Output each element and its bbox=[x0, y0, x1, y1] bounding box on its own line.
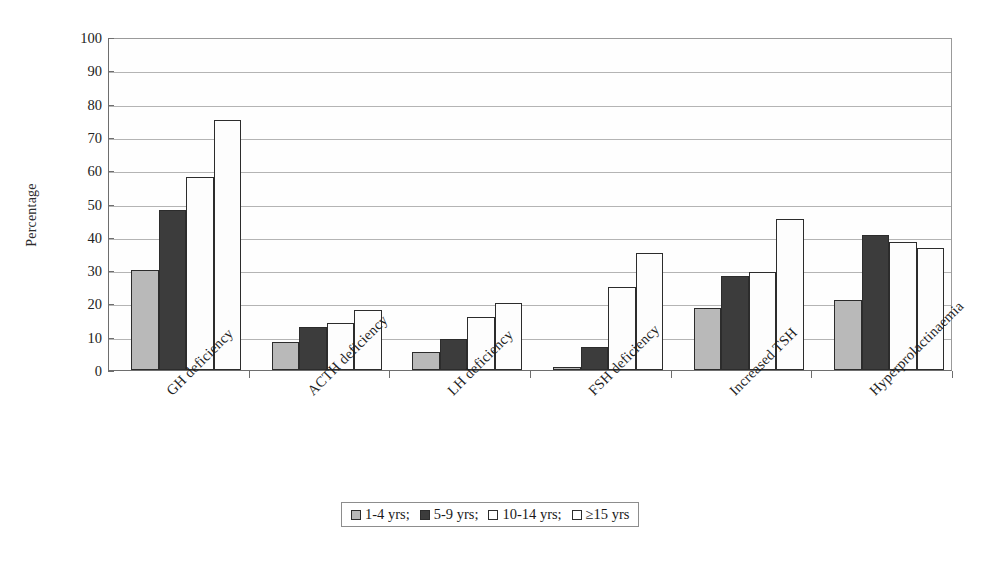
y-axis-tick-mark bbox=[108, 371, 114, 372]
bar bbox=[553, 367, 581, 370]
y-axis-tick-label: 70 bbox=[66, 129, 102, 146]
y-axis-tick-mark bbox=[108, 238, 114, 239]
y-axis-tick-label: 60 bbox=[66, 163, 102, 180]
legend-item: 5-9 yrs; bbox=[420, 506, 479, 523]
y-axis-tick-mark bbox=[108, 271, 114, 272]
gridline bbox=[109, 72, 951, 73]
y-axis-tick-label: 20 bbox=[66, 296, 102, 313]
y-axis-tick-mark bbox=[108, 38, 114, 39]
x-axis-tick-mark bbox=[389, 371, 390, 378]
x-axis-tick-mark bbox=[952, 371, 953, 378]
legend-item: 1-4 yrs; bbox=[351, 506, 410, 523]
y-axis-tick-label: 80 bbox=[66, 96, 102, 113]
bar bbox=[721, 276, 749, 370]
legend-item: ≥15 yrs bbox=[572, 506, 630, 523]
legend-swatch-icon bbox=[488, 510, 498, 520]
y-axis-tick-label: 40 bbox=[66, 229, 102, 246]
y-axis-tick-label: 90 bbox=[66, 63, 102, 80]
x-axis-tick-mark bbox=[671, 371, 672, 378]
bar bbox=[412, 352, 440, 370]
y-axis-tick-label: 100 bbox=[66, 30, 102, 47]
y-axis-tick-mark bbox=[108, 205, 114, 206]
bar bbox=[694, 308, 722, 370]
y-axis-tick-mark bbox=[108, 304, 114, 305]
y-axis-tick-mark bbox=[108, 338, 114, 339]
x-axis-tick-mark bbox=[530, 371, 531, 378]
legend-label: 1-4 yrs; bbox=[365, 506, 410, 523]
bar bbox=[159, 210, 187, 370]
bar bbox=[131, 270, 159, 370]
chart-legend: 1-4 yrs;5-9 yrs;10-14 yrs;≥15 yrs bbox=[341, 502, 639, 527]
y-axis-title: Percentage bbox=[24, 150, 40, 280]
bar bbox=[299, 327, 327, 370]
y-axis-tick-label: 50 bbox=[66, 196, 102, 213]
x-axis-tick-mark bbox=[811, 371, 812, 378]
chart-figure: Percentage 0102030405060708090100 1-4 yr… bbox=[0, 0, 993, 562]
bar bbox=[272, 342, 300, 370]
legend-swatch-icon bbox=[351, 510, 361, 520]
legend-label: 10-14 yrs; bbox=[502, 506, 561, 523]
x-axis-tick-mark bbox=[249, 371, 250, 378]
legend-swatch-icon bbox=[572, 510, 582, 520]
y-axis-tick-labels: 0102030405060708090100 bbox=[62, 38, 102, 371]
bar bbox=[440, 339, 468, 370]
bar bbox=[862, 235, 890, 370]
y-axis-tick-mark bbox=[108, 71, 114, 72]
legend-item: 10-14 yrs; bbox=[488, 506, 561, 523]
y-axis-tick-label: 10 bbox=[66, 329, 102, 346]
gridline bbox=[109, 106, 951, 107]
y-axis-tick-label: 30 bbox=[66, 263, 102, 280]
y-axis-tick-label: 0 bbox=[66, 363, 102, 380]
legend-label: ≥15 yrs bbox=[586, 506, 630, 523]
bar bbox=[834, 300, 862, 370]
legend-label: 5-9 yrs; bbox=[434, 506, 479, 523]
y-axis-tick-mark bbox=[108, 105, 114, 106]
legend-swatch-icon bbox=[420, 510, 430, 520]
plot-area bbox=[108, 38, 952, 371]
y-axis-tick-mark bbox=[108, 138, 114, 139]
y-axis-tick-mark bbox=[108, 171, 114, 172]
